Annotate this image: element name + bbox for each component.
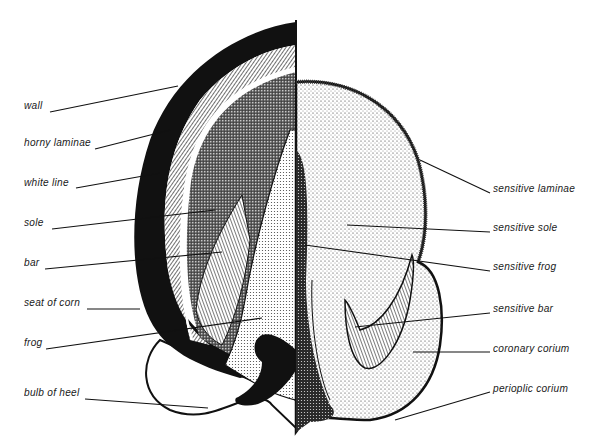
label-seat-of-corn: seat of corn [24, 296, 80, 308]
label-sensitive-sole: sensitive sole [493, 221, 557, 233]
label-bar: bar [24, 256, 39, 268]
label-coronary-corium: coronary corium [493, 342, 570, 354]
right-half-sensitive-structures [296, 82, 442, 432]
label-wall: wall [24, 99, 42, 111]
leader-line [420, 160, 490, 193]
label-sensitive-laminae: sensitive laminae [493, 182, 575, 194]
label-sensitive-bar: sensitive bar [493, 302, 553, 314]
label-frog: frog [24, 336, 43, 348]
leader-line [50, 86, 178, 112]
label-white-line: white line [24, 176, 69, 188]
label-sole: sole [24, 216, 44, 228]
label-sensitive-frog: sensitive frog [493, 260, 556, 272]
label-perioplic-corium: perioplic corium [493, 382, 568, 394]
label-bulb-of-heel: bulb of heel [24, 386, 80, 398]
left-half-ground-surface [134, 22, 296, 428]
label-horny-laminae: horny laminae [24, 136, 91, 148]
